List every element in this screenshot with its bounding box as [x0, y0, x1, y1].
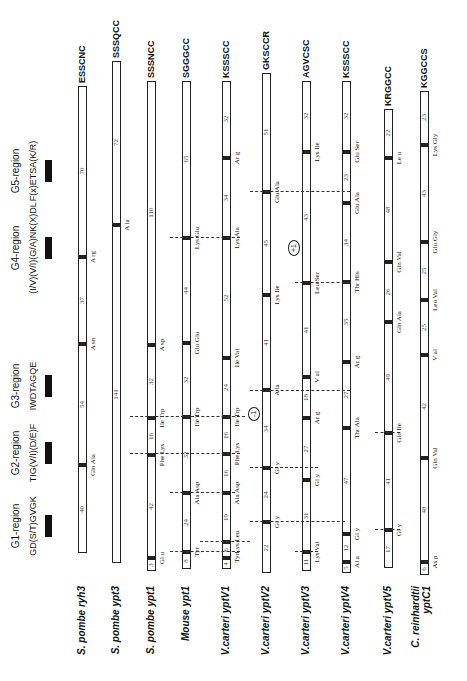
exon-length: 141	[112, 389, 121, 400]
intron-junction	[262, 294, 271, 297]
region-bar	[45, 160, 52, 182]
exon-length: 19	[222, 514, 231, 521]
exon-length: 34	[222, 195, 231, 202]
splice-amino-acids: Gl y	[273, 516, 281, 528]
exon-length: 42	[420, 403, 429, 410]
intron-junction	[78, 343, 87, 346]
region-bar	[45, 515, 52, 537]
splice-amino-acids: Gl y	[353, 528, 361, 540]
dashed-guide-line	[375, 529, 400, 530]
gene-track: 512472735342332Al aGl yThr AlaAr gThr Hi…	[342, 0, 354, 681]
splice-amino-acids: A sp	[158, 339, 166, 352]
dashed-guide-line	[295, 551, 318, 552]
exon-length: 43	[302, 214, 311, 221]
exon-length: 8	[182, 559, 191, 563]
exon-length: 18	[302, 394, 311, 401]
splice-amino-acids: A la	[123, 219, 131, 230]
exon-length: 70	[78, 168, 87, 175]
splice-amino-acids: Phe Lys	[233, 443, 241, 465]
gene-track: 6484225254323As pGln ValV alLeu ValGlu G…	[420, 0, 432, 681]
splice-amino-acids: Lys Glu	[193, 227, 201, 249]
splice-amino-acids: Lys Ala	[233, 227, 241, 249]
intron-junction	[302, 479, 311, 482]
exon-length: 43	[420, 190, 429, 197]
region-motif: F(x)ETSA(K/R)	[28, 141, 38, 202]
exon-length: 24	[182, 519, 191, 526]
c-terminal-motif: GKSCCR	[261, 31, 271, 70]
splice-amino-acids: Glu Ala	[273, 181, 281, 203]
region-label: G5-region	[10, 149, 21, 193]
splice-amino-acids: Lys Leu	[233, 531, 241, 554]
splice-amino-acids: V al	[313, 371, 321, 383]
exon-length: 110	[147, 207, 156, 217]
exon-length: 16	[147, 433, 156, 440]
dashed-guide-line	[375, 432, 400, 433]
exon-length: 22	[262, 545, 271, 552]
gene-track: 3421632110Gl uPhe LysIle TrpA spSSSNCC	[147, 0, 159, 681]
splice-amino-acids: Gl u	[158, 552, 166, 564]
dashed-guide-line	[200, 541, 250, 542]
c-terminal-motif: SSSQCC	[111, 20, 121, 58]
splice-amino-acids: Glu Ser	[353, 141, 361, 163]
exon-length: 72	[112, 139, 121, 146]
exon-length: 65	[182, 156, 191, 163]
region-motif: (I/V)(V/I)(G/A)NK(X)DL	[28, 202, 38, 294]
exon-length: 31	[302, 513, 311, 520]
splice-amino-acids: Ile Trp	[233, 408, 241, 427]
gene-track: 11312718414332Lys ValGl yAr gV alLeu Ser…	[302, 0, 314, 681]
intron-junction	[342, 561, 351, 564]
splice-amino-acids: Al a	[353, 556, 361, 568]
splice-amino-acids: Thr Ala	[353, 417, 361, 439]
intron-junction	[342, 202, 351, 205]
c-terminal-motif: AGVCSC	[301, 39, 311, 78]
exon-length: 22	[384, 130, 393, 137]
splice-amino-acids: Gln Val	[395, 251, 403, 272]
region-label: G4-region	[10, 226, 21, 270]
intron-junction	[420, 457, 429, 460]
exon-length: 52	[222, 295, 231, 302]
intron-junction	[182, 342, 191, 345]
splice-amino-acids: Leu Val	[431, 289, 439, 311]
intron-junction	[302, 151, 311, 154]
dashed-guide-line	[170, 551, 240, 552]
intron-junction	[78, 256, 87, 259]
intron-junction	[147, 557, 156, 560]
splice-amino-acids: Gln Ala	[395, 311, 403, 333]
exon-length: 16	[222, 470, 231, 477]
splice-amino-acids: Le u	[395, 152, 403, 165]
region-bar	[45, 442, 52, 464]
intron-junction	[420, 299, 429, 302]
region-motif: IWDTAGQE	[28, 362, 38, 410]
region-label: G2-region	[10, 431, 21, 475]
splice-amino-acids: A rg	[89, 251, 97, 263]
splice-amino-acids: Gl y	[273, 462, 281, 474]
exon-length: 32	[302, 113, 311, 120]
intron-junction	[420, 241, 429, 244]
splice-amino-acids: As p	[431, 555, 439, 568]
gene-track: 4619161624523432TyrLys LeuAla AspPhe Lys…	[222, 0, 234, 681]
c-terminal-motif: KSSSCC	[341, 40, 351, 78]
exon-length: 32	[182, 377, 191, 384]
splice-amino-acids: Ar g	[313, 412, 321, 425]
exon-length: 40	[78, 506, 87, 513]
intron-junction	[222, 557, 231, 560]
dashed-guide-line	[170, 492, 235, 493]
figure-canvas: G1-regionGD(S/T)GVGKG2-regionTIG(V/I)(D/…	[0, 0, 467, 681]
exon-length: 41	[302, 327, 311, 334]
intron-junction	[420, 354, 429, 357]
exon-length: 37	[78, 297, 87, 304]
intron-junction	[384, 157, 393, 160]
intron-phase-badge: -1	[248, 407, 260, 421]
intron-junction	[420, 561, 429, 564]
exon-length: 45	[262, 240, 271, 247]
intron-junction	[222, 157, 231, 160]
exon-length: 26	[384, 289, 393, 296]
c-terminal-motif: KSSSCC	[221, 40, 231, 78]
intron-junction	[384, 261, 393, 264]
splice-amino-acids: Ar g	[353, 356, 361, 369]
exon-length: 42	[147, 503, 156, 510]
splice-amino-acids: Glu Glu	[193, 332, 201, 355]
exon-length: 6	[420, 567, 429, 571]
exon-length: 25	[420, 324, 429, 331]
splice-amino-acids: A sn	[89, 338, 97, 351]
